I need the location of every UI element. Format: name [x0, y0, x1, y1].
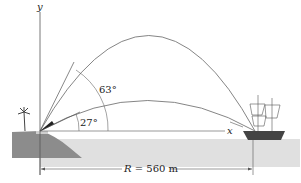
angle-label-27: 27°: [80, 118, 98, 128]
x-axis-label: x: [227, 126, 233, 136]
y-axis-label: y: [37, 2, 43, 12]
ship-icon: [230, 95, 285, 140]
range-label: R = 560 m: [124, 164, 178, 174]
trajectory-63: [40, 36, 255, 132]
direction-63: [40, 62, 74, 131]
palm-tree-icon: [18, 107, 30, 131]
cannon-pad: [36, 131, 48, 134]
angle-label-63: 63°: [99, 85, 117, 95]
projectile-diagram: [0, 0, 301, 183]
angle-arc-27: [76, 114, 79, 131]
